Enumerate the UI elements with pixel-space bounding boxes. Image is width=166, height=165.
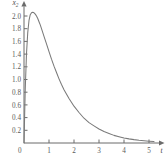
y-tick-label: 0.4 bbox=[12, 114, 21, 122]
y-tick-label: 1.8 bbox=[12, 25, 21, 33]
x-tick-label: 2 bbox=[72, 147, 76, 155]
y-tick-label: 0.2 bbox=[12, 127, 21, 135]
x-tick-label: 4 bbox=[122, 147, 126, 155]
chart-container: 123450.20.40.60.81.01.21.41.61.82.00tx2 bbox=[0, 0, 166, 165]
y-tick-label: 1.6 bbox=[12, 38, 21, 46]
y-tick-label: 2.0 bbox=[12, 13, 21, 21]
line-chart: 123450.20.40.60.81.01.21.41.61.82.00tx2 bbox=[0, 0, 166, 165]
x-axis-arrow bbox=[159, 140, 165, 145]
x-tick-label: 5 bbox=[147, 147, 151, 155]
x-tick-label: 3 bbox=[97, 147, 101, 155]
origin-label: 0 bbox=[18, 147, 22, 155]
x-tick-label: 1 bbox=[47, 147, 51, 155]
y-axis-arrow bbox=[21, 1, 26, 7]
data-curve bbox=[24, 12, 154, 143]
y-tick-label: 1.0 bbox=[12, 76, 21, 84]
x-axis-label: t bbox=[161, 146, 164, 155]
y-tick-label: 0.8 bbox=[12, 89, 21, 97]
y-tick-label: 1.4 bbox=[12, 51, 21, 59]
y-axis-label-subscript: 2 bbox=[16, 2, 19, 8]
y-tick-label: 0.6 bbox=[12, 102, 21, 110]
y-axis-label: x2 bbox=[12, 0, 19, 8]
y-tick-label: 1.2 bbox=[12, 63, 21, 71]
